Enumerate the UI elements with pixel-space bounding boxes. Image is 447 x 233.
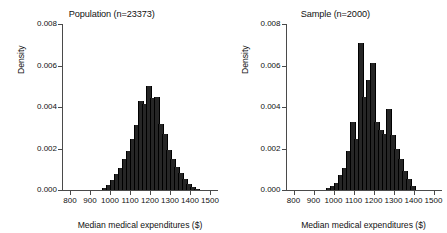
panel-title-population: Population (n=23373) (0, 9, 224, 19)
x-tick-mark (334, 191, 335, 195)
x-tick-mark (354, 191, 355, 195)
histogram-bar (410, 186, 416, 190)
histogram-bars-population (62, 24, 218, 190)
x-tick-label: 1300 (161, 196, 179, 205)
x-tick-mark (110, 191, 111, 195)
x-tick-label: 1300 (385, 196, 403, 205)
plot-area-sample: 0.0000.0020.0040.0060.008 80090010001100… (286, 24, 442, 190)
x-tick-mark (294, 191, 295, 195)
x-tick-mark (150, 191, 151, 195)
x-tick-label: 900 (83, 196, 96, 205)
y-axis-title: Density (240, 45, 250, 74)
histogram-bars-sample (286, 24, 442, 190)
x-tick-label: 1100 (345, 196, 362, 205)
x-tick-mark (374, 191, 375, 195)
y-tick-label: 0.002 (37, 144, 57, 153)
histogram-bar (194, 189, 200, 190)
panel-population: Population (n=23373) 0.0000.0020.0040.00… (0, 0, 224, 233)
x-tick-label: 1000 (325, 196, 343, 205)
x-axis-title: Median medical expenditures ($) (234, 220, 447, 230)
y-tick-label: 0.000 (37, 185, 57, 194)
y-axis-title: Density (16, 45, 26, 74)
x-tick-mark (190, 191, 191, 195)
x-tick-label: 1000 (101, 196, 119, 205)
x-tick-label: 1400 (181, 196, 199, 205)
x-tick-mark (90, 191, 91, 195)
y-tick-label: 0.008 (260, 19, 280, 28)
x-tick-mark (434, 191, 435, 195)
x-tick-label: 1500 (425, 196, 443, 205)
x-tick-label: 1400 (405, 196, 423, 205)
y-tick-label: 0.006 (37, 61, 57, 70)
y-tick-label: 0.004 (260, 102, 280, 111)
plot-area-population: 0.0000.0020.0040.0060.008 80090010001100… (62, 24, 218, 190)
x-tick-mark (314, 191, 315, 195)
panel-title-sample: Sample (n=2000) (224, 9, 447, 19)
x-tick-label: 800 (63, 196, 76, 205)
x-axis-spine (62, 190, 218, 191)
y-tick-mark (58, 190, 62, 191)
y-tick-label: 0.008 (37, 19, 57, 28)
x-tick-mark (394, 191, 395, 195)
x-tick-label: 1200 (141, 196, 159, 205)
x-tick-mark (170, 191, 171, 195)
x-tick-label: 800 (287, 196, 300, 205)
x-tick-label: 900 (307, 196, 320, 205)
x-tick-label: 1100 (121, 196, 138, 205)
histogram-figure: Population (n=23373) 0.0000.0020.0040.00… (0, 0, 447, 233)
y-tick-label: 0.000 (260, 185, 280, 194)
x-tick-label: 1500 (201, 196, 219, 205)
y-tick-mark (282, 190, 286, 191)
x-tick-mark (130, 191, 131, 195)
x-tick-mark (414, 191, 415, 195)
y-tick-label: 0.004 (37, 102, 57, 111)
x-tick-mark (70, 191, 71, 195)
y-tick-label: 0.002 (260, 144, 280, 153)
x-axis-spine (286, 190, 442, 191)
x-tick-mark (210, 191, 211, 195)
panel-sample: Sample (n=2000) 0.0000.0020.0040.0060.00… (224, 0, 447, 233)
x-tick-label: 1200 (365, 196, 383, 205)
y-tick-label: 0.006 (260, 61, 280, 70)
